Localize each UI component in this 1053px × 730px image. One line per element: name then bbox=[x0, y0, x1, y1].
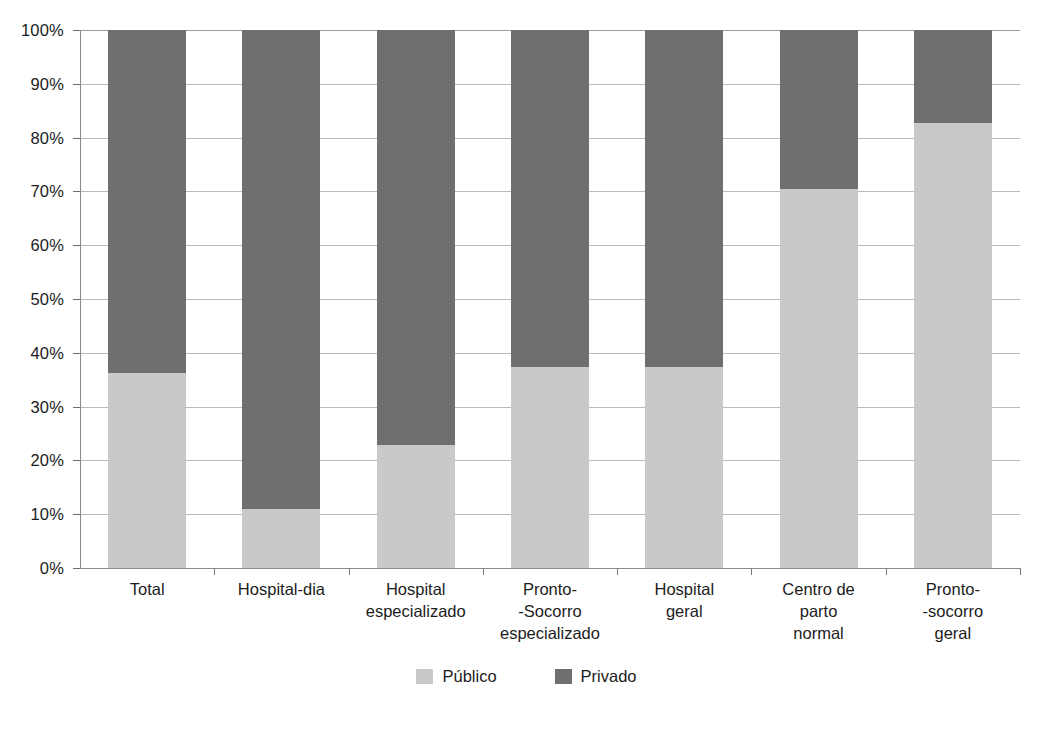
y-axis-tick-label: 100% bbox=[21, 22, 64, 39]
legend-item[interactable]: Privado bbox=[555, 668, 637, 685]
y-axis-tick bbox=[73, 353, 80, 354]
x-axis-category-label: Hospital geral bbox=[617, 578, 751, 622]
x-axis-category-label: Total bbox=[80, 578, 214, 600]
bar-segment-privado[interactable] bbox=[511, 30, 589, 367]
legend-swatch-icon bbox=[555, 669, 572, 684]
bar-segment-publico[interactable] bbox=[242, 509, 320, 568]
y-axis-tick-label: 10% bbox=[30, 506, 64, 523]
y-axis-tick bbox=[73, 514, 80, 515]
bar-group[interactable] bbox=[617, 30, 751, 568]
bar-group[interactable] bbox=[214, 30, 348, 568]
y-axis-tick bbox=[73, 407, 80, 408]
stacked-bar-chart: 100%90%80%70%60%50%40%30%20%10%0% TotalH… bbox=[0, 0, 1053, 730]
y-axis-tick bbox=[73, 460, 80, 461]
bar-group[interactable] bbox=[751, 30, 885, 568]
bar-segment-publico[interactable] bbox=[511, 367, 589, 568]
y-axis-tick bbox=[73, 245, 80, 246]
y-axis-tick bbox=[73, 30, 80, 31]
bar-group[interactable] bbox=[483, 30, 617, 568]
x-axis-category-label: Hospital-dia bbox=[214, 578, 348, 600]
bar-group[interactable] bbox=[886, 30, 1020, 568]
x-axis-tick bbox=[886, 568, 887, 575]
x-axis-category-labels: TotalHospital-diaHospital especializadoP… bbox=[80, 578, 1020, 678]
bar-group[interactable] bbox=[80, 30, 214, 568]
y-axis-tick-label: 90% bbox=[30, 76, 64, 93]
bar-stack[interactable] bbox=[645, 30, 723, 568]
bar-segment-privado[interactable] bbox=[242, 30, 320, 509]
bar-stack[interactable] bbox=[511, 30, 589, 568]
bar-segment-publico[interactable] bbox=[645, 367, 723, 568]
legend-item[interactable]: Público bbox=[416, 668, 496, 685]
bar-segment-publico[interactable] bbox=[914, 123, 992, 568]
bar-stack[interactable] bbox=[242, 30, 320, 568]
gridline bbox=[80, 568, 1020, 569]
y-axis-tick bbox=[73, 138, 80, 139]
bar-segment-publico[interactable] bbox=[108, 373, 186, 568]
y-axis-tick-label: 70% bbox=[30, 183, 64, 200]
x-axis-tick bbox=[751, 568, 752, 575]
y-axis-tick-label: 50% bbox=[30, 291, 64, 308]
bar-segment-privado[interactable] bbox=[377, 30, 455, 445]
legend-label: Privado bbox=[581, 668, 637, 685]
x-axis-category-label: Pronto- -socorro geral bbox=[886, 578, 1020, 644]
bars-layer bbox=[80, 30, 1020, 568]
x-axis-tick bbox=[349, 568, 350, 575]
y-axis-tick bbox=[73, 299, 80, 300]
y-axis-tick-label: 0% bbox=[40, 560, 64, 577]
x-axis-category-label: Pronto- -Socorro especializado bbox=[483, 578, 617, 644]
y-axis-tick-label: 40% bbox=[30, 345, 64, 362]
x-axis-category-label: Hospital especializado bbox=[349, 578, 483, 622]
bar-segment-publico[interactable] bbox=[780, 189, 858, 568]
x-axis-tick bbox=[214, 568, 215, 575]
bar-segment-privado[interactable] bbox=[914, 30, 992, 123]
x-axis-category-label: Centro de parto normal bbox=[751, 578, 885, 644]
y-axis-tick-labels: 100%90%80%70%60%50%40%30%20%10%0% bbox=[0, 30, 72, 568]
bar-segment-publico[interactable] bbox=[377, 445, 455, 568]
y-axis-tick bbox=[73, 568, 80, 569]
y-axis-tick bbox=[73, 84, 80, 85]
bar-segment-privado[interactable] bbox=[108, 30, 186, 373]
bar-stack[interactable] bbox=[780, 30, 858, 568]
x-axis-tick bbox=[483, 568, 484, 575]
y-axis-tick-label: 60% bbox=[30, 237, 64, 254]
legend-label: Público bbox=[442, 668, 496, 685]
bar-stack[interactable] bbox=[108, 30, 186, 568]
y-axis-tick-label: 30% bbox=[30, 398, 64, 415]
bar-segment-privado[interactable] bbox=[780, 30, 858, 189]
x-axis-tick bbox=[617, 568, 618, 575]
y-axis-tick-label: 80% bbox=[30, 129, 64, 146]
chart-legend: PúblicoPrivado bbox=[0, 668, 1053, 685]
bar-stack[interactable] bbox=[377, 30, 455, 568]
x-axis-tick bbox=[1020, 568, 1021, 575]
legend-swatch-icon bbox=[416, 669, 433, 684]
bar-segment-privado[interactable] bbox=[645, 30, 723, 367]
bar-stack[interactable] bbox=[914, 30, 992, 568]
bar-group[interactable] bbox=[349, 30, 483, 568]
y-axis-tick-label: 20% bbox=[30, 452, 64, 469]
plot-area bbox=[80, 30, 1020, 568]
y-axis-tick bbox=[73, 191, 80, 192]
plot-wrapper: 100%90%80%70%60%50%40%30%20%10%0% TotalH… bbox=[0, 0, 1053, 600]
